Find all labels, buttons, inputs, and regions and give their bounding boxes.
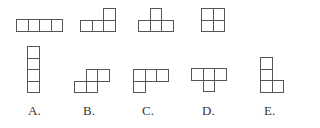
grid-cell (214, 68, 227, 81)
grid-cell (27, 81, 40, 94)
grid-cell (51, 19, 64, 32)
grid-cell (133, 81, 146, 94)
option-e-label: E. (264, 104, 275, 118)
grid-cell (203, 80, 216, 93)
grid-cell (213, 20, 226, 33)
grid-cell (272, 80, 285, 93)
option-b-label: B. (83, 104, 95, 118)
option-a-label: A. (28, 104, 41, 118)
option-c-label: C. (142, 104, 154, 118)
grid-cell (161, 20, 174, 33)
option-d-label: D. (202, 104, 215, 118)
grid-cell (97, 69, 110, 82)
grid-cell (156, 69, 169, 82)
grid-cell (86, 81, 99, 94)
grid-cell (103, 20, 116, 33)
